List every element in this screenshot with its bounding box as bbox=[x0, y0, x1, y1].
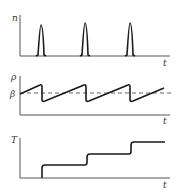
pulse-3 bbox=[125, 23, 135, 56]
diagram-canvas: n t ρ β t T t bbox=[0, 0, 183, 194]
panel-reactivity: ρ β t bbox=[9, 72, 173, 126]
y-axis-label: n bbox=[12, 13, 18, 23]
pulse-1 bbox=[36, 25, 46, 56]
x-axis-label: t bbox=[163, 58, 167, 68]
panel-temperature: T t bbox=[11, 135, 170, 190]
beta-label: β bbox=[9, 89, 15, 99]
y-axis-label: ρ bbox=[10, 72, 17, 82]
pulse-2 bbox=[80, 23, 90, 56]
x-axis-label: t bbox=[163, 180, 167, 190]
staircase-curve bbox=[42, 142, 165, 178]
panel-neutron-density: n t bbox=[12, 13, 170, 68]
x-axis-label: t bbox=[163, 116, 167, 126]
y-axis-label: T bbox=[11, 135, 18, 145]
